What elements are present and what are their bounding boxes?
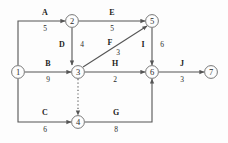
activity-label-b: B — [42, 59, 54, 68]
activity-label-f: F — [104, 38, 116, 47]
activity-label-e: E — [106, 8, 118, 17]
network-diagram-canvas: 1 2 3 4 5 6 7 A 5 B 9 C 6 D 4 E 5 F 3 G … — [0, 0, 228, 143]
activity-duration-f: 3 — [112, 48, 124, 57]
activity-label-j: J — [176, 59, 188, 68]
activity-duration-b: 9 — [42, 75, 54, 84]
activity-label-a: A — [39, 8, 51, 17]
activity-label-d: D — [56, 40, 68, 49]
activity-duration-e: 5 — [106, 24, 118, 33]
network-diagram-svg — [0, 0, 228, 143]
node-circle-2 — [66, 15, 79, 28]
activity-duration-i: 6 — [156, 40, 168, 49]
activity-duration-j: 3 — [176, 75, 188, 84]
activity-duration-c: 6 — [39, 125, 51, 134]
activity-label-c: C — [39, 108, 51, 117]
node-circle-3 — [72, 66, 85, 79]
activity-duration-h: 2 — [109, 75, 121, 84]
activity-label-g: G — [110, 108, 122, 117]
node-circle-7 — [205, 66, 218, 79]
node-circle-4 — [72, 116, 85, 129]
node-circle-1 — [12, 66, 25, 79]
node-circle-5 — [146, 15, 159, 28]
node-circle-6 — [146, 66, 159, 79]
activity-duration-g: 8 — [110, 125, 122, 134]
activity-duration-a: 5 — [39, 24, 51, 33]
activity-duration-d: 4 — [76, 40, 88, 49]
activity-label-i: I — [137, 40, 149, 49]
activity-label-h: H — [109, 59, 121, 68]
